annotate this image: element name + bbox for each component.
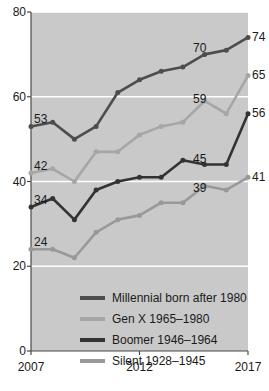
start-label-boomer: 34 xyxy=(34,194,47,206)
start-label-genx: 42 xyxy=(34,160,47,172)
data-point xyxy=(94,124,99,129)
legend-label-millennial: Millennial born after 1980 xyxy=(112,291,247,305)
data-point xyxy=(50,247,55,252)
legend-item-genx[interactable]: Gen X 1965–1980 xyxy=(80,308,247,329)
end-label-genx: 65 xyxy=(252,69,265,81)
data-point xyxy=(224,187,229,192)
series-line-0 xyxy=(31,37,248,139)
data-point xyxy=(94,187,99,192)
mid-label-boomer: 45 xyxy=(193,153,206,165)
x-tick-label-2007: 2007 xyxy=(11,361,51,373)
data-point xyxy=(180,158,185,163)
data-point xyxy=(29,204,34,209)
mid-label-millennial: 70 xyxy=(193,42,206,54)
end-label-silent: 41 xyxy=(252,171,265,183)
data-point xyxy=(29,247,34,252)
data-point xyxy=(224,162,229,167)
legend-swatch-boomer xyxy=(80,338,105,342)
data-point xyxy=(50,166,55,171)
data-point xyxy=(180,65,185,70)
start-label-millennial: 53 xyxy=(34,113,47,125)
legend-swatch-silent xyxy=(80,359,105,363)
data-point xyxy=(72,255,77,260)
data-point xyxy=(29,171,34,176)
data-point xyxy=(246,73,251,78)
data-point xyxy=(72,137,77,142)
data-point xyxy=(137,213,142,218)
data-point xyxy=(50,196,55,201)
data-point xyxy=(50,120,55,125)
legend-item-millennial[interactable]: Millennial born after 1980 xyxy=(80,287,247,308)
start-label-silent: 24 xyxy=(34,236,47,248)
legend-label-silent: Silent 1928–1945 xyxy=(112,354,205,368)
mid-label-genx: 59 xyxy=(193,93,206,105)
data-point xyxy=(72,217,77,222)
data-point xyxy=(94,149,99,154)
end-label-boomer: 56 xyxy=(252,107,265,119)
mid-label-silent: 39 xyxy=(193,182,206,194)
legend: Millennial born after 1980 Gen X 1965–19… xyxy=(80,287,247,371)
data-point xyxy=(115,217,120,222)
data-point xyxy=(115,149,120,154)
data-point xyxy=(29,124,34,129)
legend-swatch-millennial xyxy=(80,296,105,300)
data-point xyxy=(159,69,164,74)
y-tick-label-40: 40 xyxy=(2,176,26,188)
data-point xyxy=(159,200,164,205)
data-point xyxy=(137,132,142,137)
legend-label-boomer: Boomer 1946–1964 xyxy=(112,333,217,347)
y-tick-label-0: 0 xyxy=(2,345,26,357)
data-point xyxy=(246,35,251,40)
y-tick-label-20: 20 xyxy=(2,260,26,272)
legend-item-boomer[interactable]: Boomer 1946–1964 xyxy=(80,329,247,350)
data-point xyxy=(159,124,164,129)
data-point xyxy=(224,111,229,116)
data-point xyxy=(137,175,142,180)
data-point xyxy=(180,200,185,205)
line-chart: 80 60 40 20 0 2007 2012 2017 53 42 34 24… xyxy=(0,0,269,391)
data-point xyxy=(246,111,251,116)
data-point xyxy=(159,175,164,180)
data-point xyxy=(115,179,120,184)
legend-item-silent[interactable]: Silent 1928–1945 xyxy=(80,350,247,371)
legend-label-genx: Gen X 1965–1980 xyxy=(112,312,209,326)
data-point xyxy=(246,175,251,180)
y-tick-label-80: 80 xyxy=(2,6,26,18)
data-point xyxy=(94,230,99,235)
data-point xyxy=(180,120,185,125)
data-point xyxy=(115,90,120,95)
data-point xyxy=(137,77,142,82)
end-label-millennial: 74 xyxy=(252,31,265,43)
y-tick-label-60: 60 xyxy=(2,91,26,103)
legend-swatch-genx xyxy=(80,317,105,321)
data-point xyxy=(224,48,229,53)
data-point xyxy=(72,179,77,184)
